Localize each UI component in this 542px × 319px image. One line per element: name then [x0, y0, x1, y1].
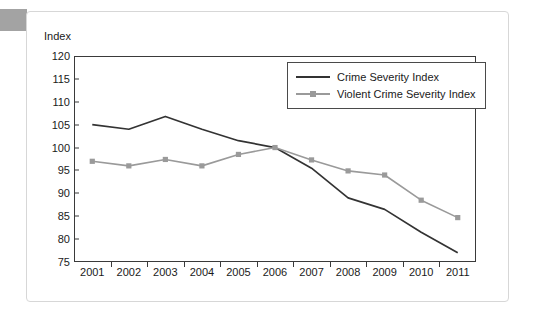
- legend-line: [296, 76, 330, 78]
- legend-swatch-icon: [296, 71, 330, 83]
- x-tick-mark: [330, 262, 331, 267]
- legend-swatch-icon: [296, 88, 330, 100]
- x-tick-mark: [439, 262, 440, 267]
- legend-marker: [310, 91, 316, 97]
- y-tick-label: 80: [42, 233, 70, 245]
- line-chart: Index 1201151101051009590858075 20012002…: [0, 0, 542, 319]
- x-tick-mark: [147, 262, 148, 267]
- y-tick-label: 100: [42, 142, 70, 154]
- x-tick-label: 2011: [436, 266, 480, 278]
- x-tick-mark: [293, 262, 294, 267]
- x-tick-mark: [220, 262, 221, 267]
- y-tick-label: 85: [42, 210, 70, 222]
- y-tick-label: 90: [42, 187, 70, 199]
- y-tick-label: 110: [42, 96, 70, 108]
- x-tick-mark: [366, 262, 367, 267]
- y-tick-label: 120: [42, 50, 70, 62]
- x-tick-mark: [184, 262, 185, 267]
- y-tick-label: 95: [42, 164, 70, 176]
- x-tick-mark: [257, 262, 258, 267]
- page-canvas: Index 1201151101051009590858075 20012002…: [0, 0, 542, 319]
- legend-item: Crime Severity Index: [296, 68, 476, 85]
- y-axis-title: Index: [44, 30, 71, 42]
- chart-legend: Crime Severity IndexViolent Crime Severi…: [287, 62, 486, 109]
- y-tick-label: 75: [42, 256, 70, 268]
- legend-label: Crime Severity Index: [337, 71, 439, 83]
- legend-label: Violent Crime Severity Index: [337, 88, 476, 100]
- x-tick-mark: [403, 262, 404, 267]
- y-tick-label: 115: [42, 73, 70, 85]
- legend-item: Violent Crime Severity Index: [296, 85, 476, 102]
- y-tick-label: 105: [42, 119, 70, 131]
- x-tick-mark: [111, 262, 112, 267]
